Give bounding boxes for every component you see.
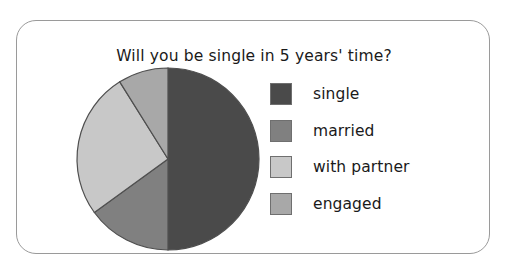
legend-label-single: single	[313, 85, 360, 103]
pie-chart	[73, 64, 263, 254]
legend-swatch-with-partner	[270, 156, 292, 178]
legend-swatch-married	[270, 120, 292, 142]
legend-label-with-partner: with partner	[313, 158, 410, 176]
legend-item-single[interactable]: single	[270, 76, 470, 113]
chart-title: Will you be single in 5 years' time?	[17, 47, 491, 65]
legend-item-with-partner[interactable]: with partner	[270, 149, 470, 186]
screenshot-root: Will you be single in 5 years' time? sin…	[0, 0, 509, 275]
legend-swatch-engaged	[270, 193, 292, 215]
legend-item-engaged[interactable]: engaged	[270, 186, 470, 223]
legend-swatch-single	[270, 83, 292, 105]
pie-chart-svg	[73, 64, 263, 254]
chart-card: Will you be single in 5 years' time? sin…	[16, 20, 490, 254]
legend-label-engaged: engaged	[313, 195, 382, 213]
pie-slice-single[interactable]	[168, 68, 259, 250]
legend-label-married: married	[313, 122, 374, 140]
chart-legend: single married with partner engaged	[270, 76, 470, 222]
legend-item-married[interactable]: married	[270, 113, 470, 150]
